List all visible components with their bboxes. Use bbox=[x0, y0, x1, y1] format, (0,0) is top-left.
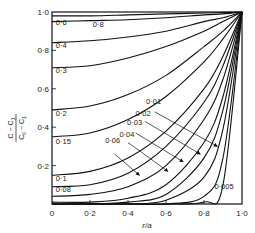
y-tick-label: 0·6 bbox=[37, 85, 49, 94]
y-tick-label: 0·8 bbox=[37, 46, 49, 55]
curve-label: 0·005 bbox=[214, 182, 233, 191]
curve-label: 0·3 bbox=[56, 66, 67, 75]
curve-label: 0·1 bbox=[56, 174, 67, 183]
curve-label: 0·04 bbox=[119, 130, 134, 139]
y-axis-ticks: 0·20·40·60·81·0 bbox=[37, 8, 56, 171]
curve-0-4 bbox=[52, 12, 242, 43]
svg-text:C0 − C1: C0 − C1 bbox=[18, 116, 27, 140]
x-tick-label: 0·4 bbox=[122, 209, 134, 218]
x-tick-label: 0·8 bbox=[198, 209, 210, 218]
y-tick-label: 1·0 bbox=[37, 8, 49, 17]
arrow-annotation bbox=[128, 143, 168, 172]
y-tick-label: 0·4 bbox=[37, 123, 49, 132]
curve-label: 0·6 bbox=[56, 18, 67, 27]
curve-label: 0·4 bbox=[56, 41, 67, 50]
y-tick-label: 0·2 bbox=[37, 162, 49, 171]
svg-text:C − C1: C − C1 bbox=[7, 117, 16, 138]
curve-label: 0·02 bbox=[136, 109, 151, 118]
arrow-annotation bbox=[115, 154, 140, 175]
curve-0-1 bbox=[52, 12, 242, 175]
x-tick-label: 0 bbox=[50, 209, 55, 218]
curve-label: 0·01 bbox=[146, 97, 161, 106]
arrow-annotation bbox=[155, 112, 218, 147]
x-tick-label: 1·0 bbox=[236, 209, 248, 218]
y-axis-label: C − C1 C0 − C1 bbox=[7, 114, 27, 142]
curve-label: 0·08 bbox=[56, 185, 71, 194]
x-tick-label: 0·6 bbox=[160, 209, 172, 218]
curve-label: 0·03 bbox=[127, 118, 142, 127]
diffusion-profile-chart: 0·60·80·40·30·20·150·10·080·060·040·030·… bbox=[0, 0, 255, 233]
curve-label: 0·8 bbox=[93, 20, 104, 29]
x-axis-label: r/a bbox=[142, 221, 152, 230]
curve-label: 0·06 bbox=[105, 136, 120, 145]
curve-label: 0·2 bbox=[56, 109, 67, 118]
x-tick-label: 0·2 bbox=[84, 209, 96, 218]
curve-label: 0·15 bbox=[56, 137, 71, 146]
arrow-annotation bbox=[145, 121, 200, 154]
